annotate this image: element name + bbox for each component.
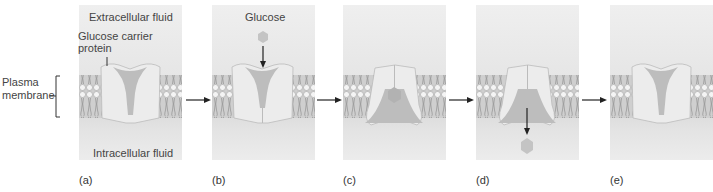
glucose-molecule-icon (258, 31, 268, 43)
panel-label-a: (a) (79, 174, 92, 186)
panel-c (343, 5, 446, 160)
panel-e (610, 5, 713, 160)
panel-b: Glucose (212, 5, 315, 160)
step-arrow-d-e (580, 96, 610, 104)
panel-label-e: (e) (610, 174, 623, 186)
panel-d (476, 5, 579, 160)
panel-label-c: (c) (343, 174, 356, 186)
glucose-label: Glucose (245, 11, 285, 23)
panel-a: Extracellular fluid Glucose carrier prot… (79, 5, 182, 160)
label-line: protein (78, 42, 153, 54)
glucose-carrier-protein-label: Glucose carrier protein (78, 30, 153, 54)
glucose-molecule-icon (521, 138, 533, 154)
extracellular-fluid-label: Extracellular fluid (89, 11, 173, 23)
panel-label-d: (d) (476, 174, 489, 186)
step-arrow-a-b (184, 96, 214, 104)
membrane-bracket (0, 0, 80, 192)
label-line: Glucose carrier (78, 30, 153, 42)
panel-label-b: (b) (212, 174, 225, 186)
step-arrow-b-c (315, 96, 345, 104)
intracellular-fluid-label: Intracellular fluid (93, 147, 173, 159)
step-arrow-c-d (447, 96, 477, 104)
